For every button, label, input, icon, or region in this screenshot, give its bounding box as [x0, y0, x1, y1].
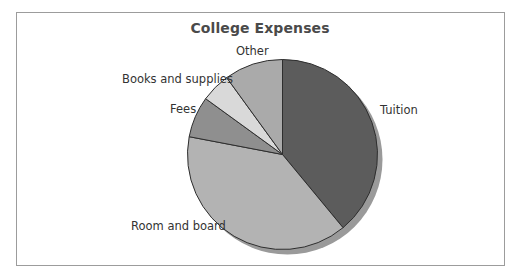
label-other: Other	[236, 44, 269, 58]
label-fees: Fees	[170, 102, 196, 116]
label-books-and-supplies: Books and supplies	[122, 72, 233, 86]
label-room-and-board: Room and board	[131, 219, 226, 233]
pie-chart	[0, 0, 520, 278]
label-tuition: Tuition	[380, 103, 418, 117]
